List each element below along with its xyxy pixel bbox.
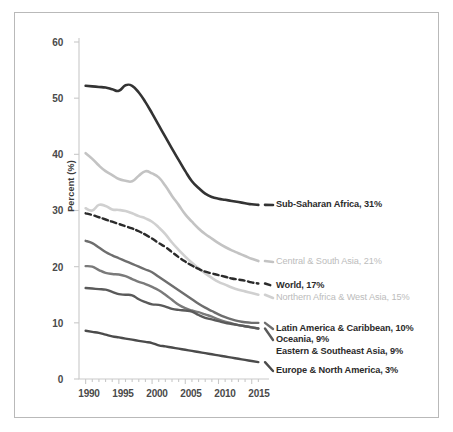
annotation-northern-africa-west-asia: Northern Africa & West Asia, 15%: [276, 292, 409, 303]
chart-frame: Percent (%) 60 50 40 30 20 10 0 1990 199…: [14, 12, 439, 418]
leader-northern-africa-west-asia: [265, 295, 273, 298]
annotation-lower-cluster: Latin America & Caribbean, 10% Oceania, …: [276, 323, 414, 357]
y-tick-40: 40: [35, 149, 63, 160]
y-tick-30: 30: [35, 205, 63, 216]
annotation-eastern-southeast-asia: Eastern & Southeast Asia, 9%: [276, 346, 414, 357]
series-line-sub-saharan-africa: [86, 84, 259, 204]
leader-europe-north-america: [265, 362, 273, 371]
y-tick-50: 50: [35, 93, 63, 104]
leader-central-south-asia: [265, 261, 273, 262]
y-tick-0: 0: [35, 374, 63, 385]
leader-world: [265, 284, 273, 286]
series-line-europe-north-america: [86, 331, 259, 362]
annotation-sub-saharan-africa: Sub-Saharan Africa, 31%: [276, 199, 382, 210]
annotation-world: World, 17%: [276, 280, 324, 291]
annotation-oceania: Oceania, 9%: [276, 334, 414, 345]
chart-figure: Percent (%) 60 50 40 30 20 10 0 1990 199…: [0, 0, 453, 432]
series-line-latin-america-caribbean: [86, 241, 259, 323]
y-tick-20: 20: [35, 262, 63, 273]
series-line-central-south-asia: [86, 153, 259, 261]
y-axis-title: Percent (%): [66, 126, 76, 246]
annotation-latin-america-caribbean: Latin America & Caribbean, 10%: [276, 323, 414, 334]
y-tick-10: 10: [35, 318, 63, 329]
x-tick-2015: 2015: [239, 388, 279, 399]
annotation-europe-north-america: Europe & North America, 3%: [276, 365, 398, 376]
leader-eastern-southeast-asia: [265, 328, 273, 340]
annotation-central-south-asia: Central & South Asia, 21%: [276, 256, 382, 267]
y-tick-60: 60: [35, 37, 63, 48]
